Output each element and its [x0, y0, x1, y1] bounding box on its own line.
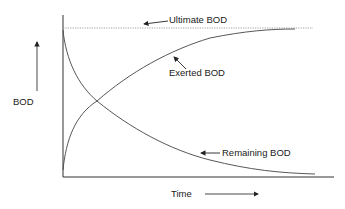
y-axis-label: BOD — [13, 97, 34, 107]
ultimate-arrow-icon — [144, 21, 168, 24]
bod-diagram — [0, 0, 345, 209]
ultimate-bod-label: Ultimate BOD — [169, 15, 227, 25]
x-axis-label: Time — [171, 189, 192, 199]
remaining-bod-label: Remaining BOD — [222, 148, 291, 158]
exerted-bod-label: Exerted BOD — [169, 68, 225, 78]
